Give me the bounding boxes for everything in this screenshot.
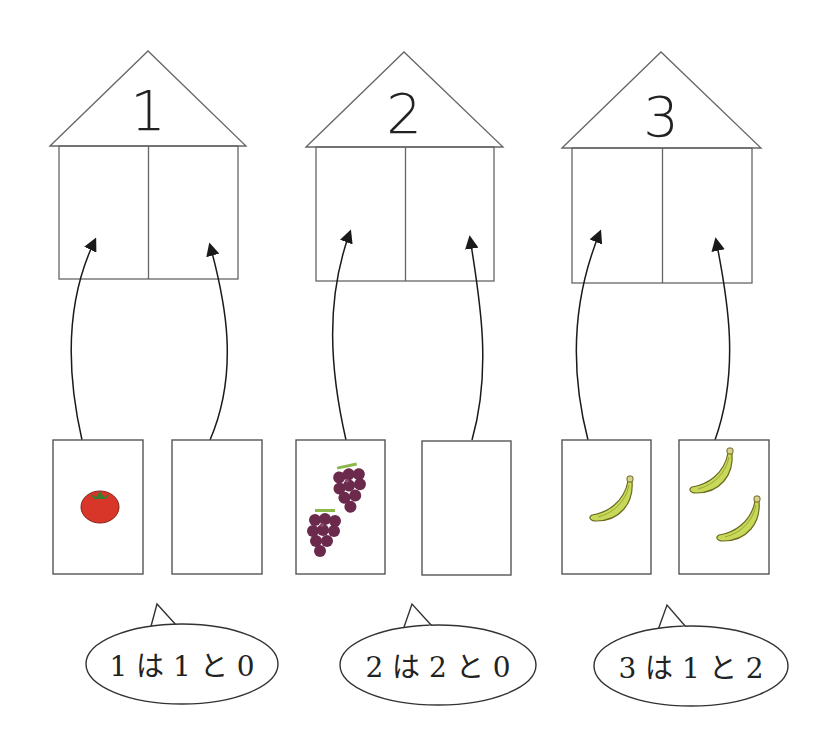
house-1: 1 bbox=[50, 51, 246, 279]
speech-bubble-3: 3 は 1 と 2 bbox=[594, 605, 788, 706]
speech-bubble-2: 2 は 2 と 0 bbox=[340, 604, 536, 705]
house-2-right-room[interactable] bbox=[406, 148, 493, 280]
card-3-left[interactable] bbox=[562, 440, 651, 574]
house-2-number: 2 bbox=[386, 81, 422, 146]
house-1-right-room[interactable] bbox=[149, 147, 237, 278]
house-1-left-room[interactable] bbox=[60, 147, 148, 278]
speech-bubble-1: 1 は 1 と 0 bbox=[86, 604, 278, 704]
bubble-2-text: 2 は 2 と 0 bbox=[365, 651, 510, 684]
card-2-right[interactable] bbox=[422, 441, 511, 575]
card-2-left[interactable] bbox=[296, 440, 385, 574]
number-composition-worksheet: 1 2 3 bbox=[0, 0, 835, 755]
house-1-number: 1 bbox=[130, 78, 166, 143]
house-3-right-room[interactable] bbox=[663, 149, 751, 282]
house-3-number: 3 bbox=[643, 84, 679, 149]
bubble-1-text: 1 は 1 と 0 bbox=[109, 650, 254, 683]
house-3: 3 bbox=[562, 52, 761, 283]
house-2-left-room[interactable] bbox=[317, 148, 405, 280]
card-1-right[interactable] bbox=[172, 440, 262, 574]
house-2: 2 bbox=[306, 52, 503, 281]
tomato-icon bbox=[81, 491, 119, 523]
house-3-left-room[interactable] bbox=[573, 149, 662, 282]
bubble-3-text: 3 は 1 と 2 bbox=[618, 652, 763, 685]
